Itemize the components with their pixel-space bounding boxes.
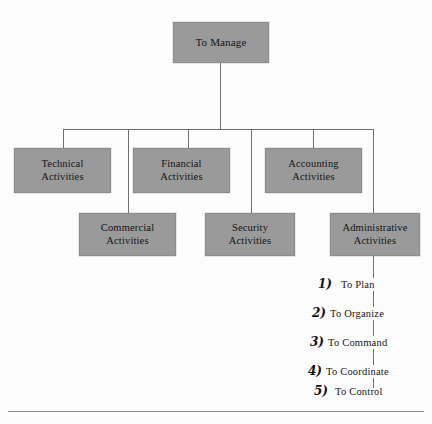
node-security-activities: Security Activities — [205, 213, 295, 256]
list-item: 5) To Control — [300, 383, 432, 399]
node-administrative-activities: Administrative Activities — [330, 213, 420, 256]
list-item-number: 2) — [312, 306, 326, 320]
connector-root-stem — [220, 62, 221, 130]
node-commercial-activities: Commercial Activities — [79, 213, 176, 256]
list-item-number: 5) — [314, 384, 328, 398]
connector-drop-security — [251, 129, 252, 214]
node-to-manage: To Manage — [173, 22, 269, 63]
connector-drop-accounting — [313, 129, 314, 149]
connector-drop-commercial — [128, 129, 129, 214]
organization-chart-figure: To Manage Technical Activities Financial… — [0, 0, 432, 424]
list-item-label: To Organize — [330, 308, 384, 319]
list-item-label: To Control — [335, 386, 383, 397]
list-item-number: 4) — [308, 364, 322, 378]
node-administrative-activities-label: Administrative Activities — [339, 222, 410, 247]
list-item: 3) To Command — [300, 334, 432, 350]
list-item: 4) To Coordinate — [300, 363, 432, 379]
node-accounting-activities: Accounting Activities — [265, 148, 362, 193]
list-item-number: 3) — [310, 335, 324, 349]
node-to-manage-label: To Manage — [193, 36, 250, 49]
list-item: 1) To Plan — [300, 276, 432, 292]
node-financial-activities: Financial Activities — [133, 148, 230, 193]
list-item: 2) To Organize — [300, 305, 432, 321]
list-item-label: To Plan — [341, 279, 375, 290]
node-commercial-activities-label: Commercial Activities — [98, 222, 157, 247]
connector-drop-administrative — [373, 129, 374, 214]
connector-horizontal-bus — [63, 129, 374, 130]
node-technical-activities-label: Technical Activities — [38, 158, 86, 183]
connector-list-segment-1 — [373, 256, 374, 278]
list-item-number: 1) — [318, 277, 332, 291]
node-financial-activities-label: Financial Activities — [157, 158, 205, 183]
connector-drop-financial — [188, 129, 189, 149]
node-security-activities-label: Security Activities — [226, 222, 274, 247]
connector-drop-technical — [63, 129, 64, 149]
node-technical-activities: Technical Activities — [14, 148, 111, 193]
bottom-divider — [8, 411, 424, 412]
list-item-label: To Coordinate — [326, 366, 389, 377]
list-item-label: To Command — [328, 337, 387, 348]
node-accounting-activities-label: Accounting Activities — [285, 158, 342, 183]
